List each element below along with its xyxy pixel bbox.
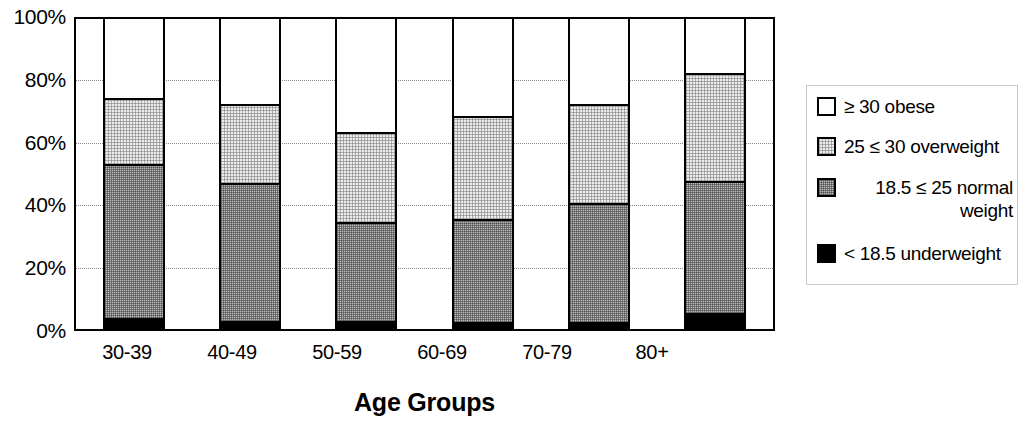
y-tick-label: 100% <box>13 6 66 27</box>
bar-40-49[interactable] <box>219 19 281 329</box>
legend-label-overweight: 25 ≤ 30 overweight <box>844 135 999 158</box>
x-tick-label-3: 60-69 <box>387 340 497 364</box>
legend-label-obese: ≥ 30 obese <box>844 95 935 118</box>
x-tick-label-2: 50-59 <box>282 340 392 364</box>
x-tick-label-5: 80+ <box>597 340 707 364</box>
y-axis: 100% 80% 60% 40% 20% 0% <box>0 0 66 426</box>
bmi-by-age-stacked-bar-chart: 100% 80% 60% 40% 20% 0% 30-39 40-49 50-5… <box>0 0 1024 426</box>
legend-item-normal: 18.5 ≤ 25 normal weight <box>817 176 1013 222</box>
x-axis: 30-39 40-49 50-59 60-69 70-79 80+ <box>74 340 775 370</box>
x-tick-label-1: 40-49 <box>177 340 287 364</box>
segment-normal[interactable] <box>335 222 397 323</box>
legend-swatch-underweight-icon <box>817 244 836 263</box>
segment-normal[interactable] <box>684 181 746 315</box>
y-tick-label: 0% <box>36 320 66 341</box>
legend-item-overweight: 25 ≤ 30 overweight <box>817 135 1013 158</box>
y-tick-label: 80% <box>25 69 66 90</box>
segment-normal[interactable] <box>452 219 514 325</box>
segment-normal[interactable] <box>103 164 165 319</box>
y-tick-label: 20% <box>25 257 66 278</box>
segment-overweight[interactable] <box>103 98 165 167</box>
segment-obese[interactable] <box>568 17 630 106</box>
y-tick-label: 40% <box>25 194 66 215</box>
segment-overweight[interactable] <box>335 132 397 224</box>
legend-label-normal: 18.5 ≤ 25 normal weight <box>844 176 1013 222</box>
bar-80+[interactable] <box>684 19 746 329</box>
bar-50-59[interactable] <box>335 19 397 329</box>
segment-normal[interactable] <box>219 183 281 323</box>
legend-swatch-overweight-icon <box>817 137 836 156</box>
segment-obese[interactable] <box>103 17 165 100</box>
bars-layer <box>76 19 773 329</box>
legend-swatch-normal-icon <box>817 178 836 197</box>
legend-item-obese: ≥ 30 obese <box>817 95 1013 118</box>
x-tick-label-0: 30-39 <box>72 340 182 364</box>
bar-60-69[interactable] <box>452 19 514 329</box>
segment-obese[interactable] <box>219 17 281 106</box>
segment-normal[interactable] <box>568 203 630 324</box>
plot-area <box>74 17 775 331</box>
segment-overweight[interactable] <box>219 104 281 185</box>
segment-obese[interactable] <box>335 17 397 134</box>
segment-underweight[interactable] <box>684 313 746 329</box>
legend-label-underweight: < 18.5 underweight <box>844 242 1001 265</box>
legend: ≥ 30 obese 25 ≤ 30 overweight 18.5 ≤ 25 … <box>806 85 1018 285</box>
segment-overweight[interactable] <box>684 73 746 184</box>
x-tick-label-4: 70-79 <box>492 340 602 364</box>
x-axis-title: Age Groups <box>74 388 775 416</box>
bar-30-39[interactable] <box>103 19 165 329</box>
y-tick-label: 60% <box>25 132 66 153</box>
segment-obese[interactable] <box>684 17 746 75</box>
segment-obese[interactable] <box>452 17 514 118</box>
segment-overweight[interactable] <box>568 104 630 205</box>
legend-item-underweight: < 18.5 underweight <box>817 242 1013 265</box>
bar-70-79[interactable] <box>568 19 630 329</box>
legend-swatch-obese-icon <box>817 97 836 116</box>
segment-overweight[interactable] <box>452 116 514 220</box>
